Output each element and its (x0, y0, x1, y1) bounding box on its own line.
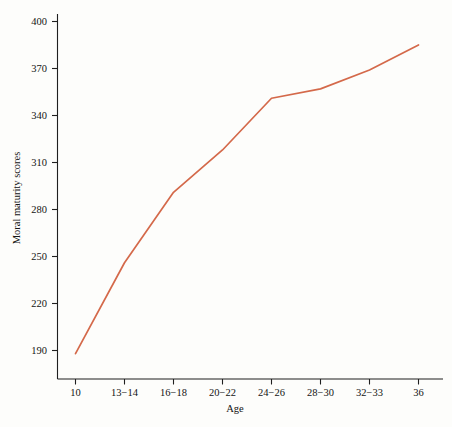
y-tick-label: 340 (31, 110, 47, 121)
y-axis-tick-labels: 400 370 340 310 280 250 220 190 (31, 16, 47, 356)
x-tick-label: 13−14 (111, 387, 139, 398)
y-tick-label: 400 (31, 16, 47, 27)
y-axis-ticks (52, 22, 58, 351)
x-tick-label: 16−18 (160, 387, 187, 398)
data-series-line (76, 45, 419, 354)
y-tick-label: 220 (31, 298, 47, 309)
x-tick-label: 10 (70, 387, 81, 398)
y-tick-label: 280 (31, 204, 47, 215)
x-tick-label: 32−33 (356, 387, 383, 398)
x-tick-label: 28−30 (307, 387, 334, 398)
y-tick-label: 190 (31, 345, 47, 356)
y-tick-label: 370 (31, 63, 47, 74)
x-axis-ticks (76, 379, 419, 385)
x-tick-label: 36 (413, 387, 424, 398)
x-axis-title: Age (226, 403, 244, 414)
x-axis-tick-labels: 10 13−14 16−18 20−22 24−26 28−30 32−33 3… (70, 387, 424, 398)
y-tick-label: 310 (31, 157, 47, 168)
x-tick-label: 20−22 (209, 387, 236, 398)
x-tick-label: 24−26 (258, 387, 285, 398)
line-chart-canvas: 400 370 340 310 280 250 220 190 10 13−14… (0, 0, 452, 427)
y-tick-label: 250 (31, 251, 47, 262)
chart-figure: 400 370 340 310 280 250 220 190 10 13−14… (0, 0, 452, 427)
y-axis-title: Moral maturity scores (11, 152, 22, 245)
